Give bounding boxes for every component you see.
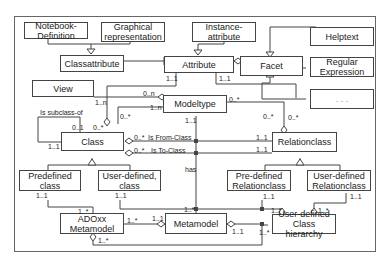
metamodel-box: Metamodel [165, 213, 227, 234]
multiplicity-label: 1..1 [185, 117, 197, 125]
multiplicity-label: 1..1 [152, 215, 164, 223]
multiplicity-label: 0..* [288, 114, 299, 122]
predefined-class-box: Predefined class [19, 170, 81, 191]
user-defined-class-hierarchy-box: User-defined Class hierarchy [272, 214, 336, 234]
multiplicity-label: 0..* [263, 113, 274, 121]
multiplicity-label: 1..* [259, 229, 270, 237]
multiplicity-label: 0..* [120, 113, 131, 121]
multiplicity-label: 1..1 [219, 75, 231, 83]
view-box: View [32, 80, 94, 97]
subclass-association-label: Is subclass-of [40, 109, 83, 117]
multiplicity-label: 1..n [150, 104, 162, 112]
multiplicity-label: 1..* [98, 237, 109, 245]
multiplicity-label: 1..* [318, 207, 329, 215]
multiplicity-label: 1..1 [115, 192, 127, 200]
adoxx-metamodel-box: ADOxx Metamodel [60, 213, 124, 234]
multiplicity-label: 0..* [134, 147, 145, 155]
multiplicity-label: 0..* [134, 134, 145, 142]
multiplicity-label: 0..1 [72, 124, 84, 132]
multiplicity-label: 1..* [271, 207, 282, 215]
has-association-label: has [185, 166, 196, 174]
graphical-representation-box: Graphical representation [101, 22, 165, 42]
attribute-box: Attribute [164, 56, 234, 73]
from-class-association-label: Is From-Class [148, 134, 192, 142]
multiplicity-label: 1..* [184, 206, 195, 214]
multiplicity-label: 1..1 [256, 134, 268, 142]
multiplicity-label: 1..1 [263, 193, 275, 201]
regular-expression-box: Regular Expression [310, 57, 374, 77]
multiplicity-label: 0..* [93, 124, 104, 132]
instance-attribute-box: Instance- attribute [192, 22, 256, 42]
multiplicity-label: 1..1 [166, 75, 178, 83]
multiplicity-label: 1..1 [232, 228, 244, 236]
multiplicity-label: 1..* [78, 208, 89, 216]
multiplicity-label: 1..1 [256, 146, 268, 154]
user-defined-class-box: User-defined, class [98, 170, 161, 191]
modeltype-box: Modeltype [163, 95, 227, 113]
multiplicity-label: 1..1 [48, 143, 60, 151]
to-class-association-label: Is To-Class [151, 147, 186, 155]
predefined-relationclass-box: Pre-defined Relationclass [227, 170, 291, 191]
user-defined-relationclass-box: User-defined Relationclass [307, 170, 371, 191]
multiplicity-label: 1..1 [350, 193, 362, 201]
classattribute-box: Classattribute [60, 55, 124, 72]
multiplicity-label: 1..1 [36, 192, 48, 200]
class-box: Class [61, 132, 124, 151]
multiplicity-label: 0..n [143, 90, 155, 98]
facet-box: Facet [240, 56, 303, 76]
multiplicity-label: 1..n [95, 99, 107, 107]
helptext-box: Helptext [310, 27, 374, 46]
ellipsis-box: . . . [310, 89, 374, 109]
relationclass-box: Relationclass [272, 132, 337, 152]
multiplicity-label: 1..* [127, 217, 138, 225]
notebook-definition-box: Notebook- Definition [24, 22, 88, 39]
multiplicity-label: 0..* [229, 96, 240, 104]
